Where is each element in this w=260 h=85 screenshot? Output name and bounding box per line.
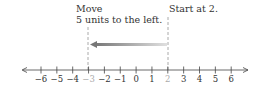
tick-label: −5 [51, 74, 64, 84]
tick-label: 0 [133, 74, 138, 84]
number-line: −6−5−4−3−2−10123456 [0, 0, 260, 85]
move-arrow-head [90, 41, 97, 48]
tick-label: −6 [35, 74, 48, 84]
tick-label: −4 [66, 74, 79, 84]
tick-label: 4 [197, 74, 202, 84]
tick-label: −1 [114, 74, 127, 84]
tick-label: −2 [98, 74, 111, 84]
tick-label: 2 [165, 74, 170, 84]
tick-label: 3 [181, 74, 186, 84]
tick-label: 6 [228, 74, 233, 84]
tick-label: 5 [213, 74, 218, 84]
tick-label: 1 [149, 74, 154, 84]
move-arrow-shaft [95, 43, 167, 46]
tick-label: −3 [82, 74, 95, 84]
